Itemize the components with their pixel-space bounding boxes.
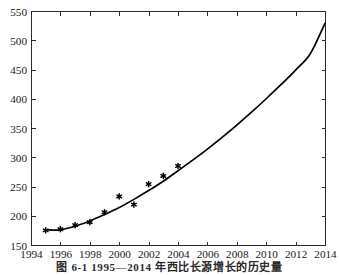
y-tick-label: 300 [10, 152, 27, 164]
y-tick-label: 350 [10, 123, 27, 135]
x-tick-label: 2004 [167, 248, 190, 258]
x-tick-label: 1996 [50, 248, 73, 258]
data-point-marker [117, 194, 122, 199]
chart-axes [32, 12, 326, 246]
figure-container: 150200250300350400450500550 199419961998… [0, 0, 339, 275]
y-tick-label: 200 [10, 210, 27, 222]
y-axis-ticks: 150200250300350400450500550 [10, 6, 325, 252]
y-tick-label: 250 [10, 181, 27, 193]
y-tick-label: 500 [10, 35, 27, 47]
data-point-marker [176, 163, 181, 168]
axis-frame [32, 12, 326, 246]
x-tick-label: 2014 [314, 248, 337, 258]
x-tick-label: 1994 [20, 248, 43, 258]
data-point-marker [161, 173, 166, 178]
growth-curve-chart: 150200250300350400450500550 199419961998… [0, 0, 339, 258]
data-point-marker [146, 182, 151, 187]
x-tick-label: 2012 [285, 248, 307, 258]
data-point-marker [132, 202, 137, 207]
fitted-trend-line [46, 23, 325, 230]
x-axis-ticks: 1994199619982000200220042006200820102012… [20, 12, 337, 259]
fitted-curve [46, 23, 325, 230]
x-tick-label: 2010 [256, 248, 279, 258]
x-tick-label: 2000 [109, 248, 132, 258]
x-tick-label: 2002 [138, 248, 160, 258]
y-tick-label: 450 [10, 64, 27, 76]
y-tick-label: 550 [10, 6, 27, 18]
x-tick-label: 2006 [197, 248, 220, 258]
x-tick-label: 1998 [79, 248, 102, 258]
figure-caption: 图 6-1 1995—2014 年西比长源增长的历史量 [0, 260, 339, 275]
x-tick-label: 2008 [226, 248, 249, 258]
data-point-markers [43, 163, 180, 233]
y-tick-label: 400 [10, 93, 27, 105]
